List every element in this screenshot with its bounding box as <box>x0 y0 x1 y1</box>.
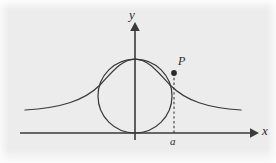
y-axis-label: y <box>129 8 135 21</box>
y-axis <box>130 22 140 140</box>
figure-canvas <box>0 0 276 163</box>
point-label-p: P <box>178 55 185 67</box>
point-marker-p <box>171 70 177 76</box>
x-axis-label: x <box>262 124 268 137</box>
math-figure: y x P a <box>0 0 276 163</box>
y-axis-arrowhead <box>130 22 140 31</box>
x-tick-label-a: a <box>170 136 176 147</box>
bell-curve <box>25 59 241 110</box>
x-axis-arrowhead <box>250 128 259 138</box>
